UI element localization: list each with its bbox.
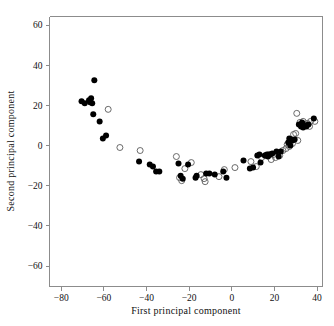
- y-tick-label: 60: [33, 20, 43, 30]
- data-point: [232, 165, 238, 171]
- data-point: [105, 106, 111, 112]
- x-tick-label: −60: [96, 293, 111, 303]
- scatter-plot-canvas: −80−60−40−2002040 6040200−20−40−60 First…: [0, 0, 334, 326]
- data-point: [305, 121, 311, 127]
- x-tick-label: −80: [54, 293, 69, 303]
- data-point: [103, 132, 109, 138]
- y-tick-label: −60: [28, 261, 43, 271]
- data-point: [293, 130, 299, 136]
- data-point: [220, 169, 226, 175]
- data-point: [212, 172, 218, 178]
- data-point: [150, 164, 156, 170]
- data-point: [185, 162, 191, 168]
- data-point: [136, 159, 142, 165]
- data-point: [89, 100, 95, 106]
- data-point: [137, 148, 143, 154]
- y-tick-label: 40: [33, 61, 43, 71]
- data-point: [258, 160, 264, 166]
- data-point: [206, 171, 212, 177]
- x-tick-label: −20: [182, 293, 197, 303]
- x-tick-label: 0: [229, 293, 234, 303]
- y-tick-label: −20: [28, 181, 43, 191]
- data-point: [173, 154, 179, 160]
- x-tick-label: 20: [270, 293, 280, 303]
- data-point: [256, 152, 262, 158]
- x-axis-label: First principal component: [131, 305, 241, 316]
- data-point: [88, 95, 94, 101]
- data-point: [117, 145, 123, 151]
- data-point: [175, 161, 181, 167]
- y-axis-ticks: 6040200−20−40−60: [28, 20, 50, 271]
- data-point: [292, 136, 298, 142]
- data-point: [294, 110, 300, 116]
- x-axis-ticks: −80−60−40−2002040: [54, 287, 322, 303]
- data-point: [90, 111, 96, 117]
- y-tick-label: −40: [28, 221, 43, 231]
- data-point: [97, 118, 103, 124]
- data-point: [250, 165, 256, 171]
- data-point: [278, 149, 284, 155]
- data-point: [180, 176, 186, 182]
- pca-scatter-figure: −80−60−40−2002040 6040200−20−40−60 First…: [0, 0, 334, 326]
- x-tick-label: 40: [312, 293, 322, 303]
- data-point: [91, 77, 97, 83]
- y-tick-label: 0: [38, 141, 43, 151]
- y-axis-label: Second principal component: [5, 91, 16, 212]
- data-point: [311, 115, 317, 121]
- y-tick-label: 20: [33, 101, 43, 111]
- data-point: [248, 159, 254, 165]
- data-point: [156, 169, 162, 175]
- data-point: [240, 158, 246, 164]
- x-tick-label: −40: [139, 293, 154, 303]
- data-point: [194, 173, 200, 179]
- filled-circle-series: [79, 77, 317, 181]
- data-point: [223, 175, 229, 181]
